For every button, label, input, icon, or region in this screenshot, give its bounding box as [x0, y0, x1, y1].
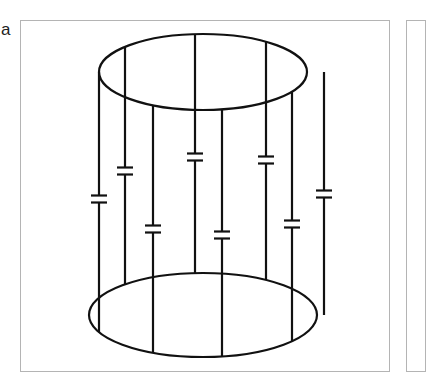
rung-7 — [284, 92, 300, 342]
rung-4 — [187, 34, 203, 273]
rung-8 — [316, 72, 332, 315]
rung-3 — [145, 105, 161, 352]
rung-5 — [214, 109, 230, 356]
top-ring — [99, 34, 307, 110]
rung-group — [91, 34, 332, 356]
rung-2 — [117, 47, 133, 285]
bottom-ring — [89, 273, 317, 357]
rung-6 — [258, 42, 274, 280]
